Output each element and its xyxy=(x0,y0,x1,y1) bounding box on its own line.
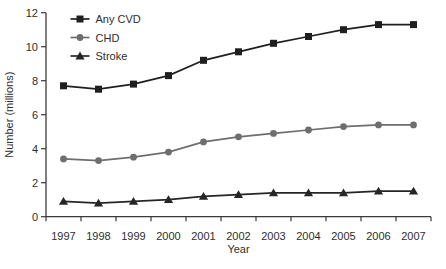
data-point-chd xyxy=(235,133,242,140)
data-point-any-cvd xyxy=(305,33,312,40)
data-point-any-cvd xyxy=(375,21,382,28)
y-tick-label: 0 xyxy=(32,211,38,223)
x-tick-label: 2004 xyxy=(296,230,320,242)
x-tick-label: 2000 xyxy=(156,230,180,242)
x-axis-title: Year xyxy=(227,243,250,255)
legend-square-icon xyxy=(77,16,84,23)
legend-circle-icon xyxy=(77,34,84,41)
series-line-chd xyxy=(64,125,414,161)
data-point-any-cvd xyxy=(235,48,242,55)
y-tick-label: 12 xyxy=(26,7,38,19)
x-tick-label: 2003 xyxy=(261,230,285,242)
x-tick-label: 2002 xyxy=(226,230,250,242)
y-tick-label: 4 xyxy=(32,143,38,155)
data-point-any-cvd xyxy=(410,21,417,28)
x-tick-label: 2006 xyxy=(366,230,390,242)
data-point-any-cvd xyxy=(270,40,277,47)
data-point-any-cvd xyxy=(95,86,102,93)
y-tick-label: 2 xyxy=(32,177,38,189)
data-point-chd xyxy=(375,122,382,129)
data-point-chd xyxy=(410,122,417,129)
x-tick-label: 2007 xyxy=(401,230,425,242)
y-tick-label: 8 xyxy=(32,75,38,87)
legend-label: Stroke xyxy=(96,50,128,62)
chart-canvas: 0246810121997199819992000200120022003200… xyxy=(0,0,446,269)
y-tick-label: 6 xyxy=(32,109,38,121)
data-point-chd xyxy=(340,123,347,130)
x-tick-label: 1999 xyxy=(121,230,145,242)
y-tick-label: 10 xyxy=(26,41,38,53)
data-point-any-cvd xyxy=(130,81,137,88)
data-point-any-cvd xyxy=(200,57,207,64)
data-point-any-cvd xyxy=(165,72,172,79)
x-tick-label: 2005 xyxy=(331,230,355,242)
data-point-any-cvd xyxy=(60,82,67,89)
y-axis-title: Number (millions) xyxy=(3,72,15,158)
data-point-chd xyxy=(95,157,102,164)
x-tick-label: 2001 xyxy=(191,230,215,242)
data-point-chd xyxy=(130,154,137,161)
data-point-any-cvd xyxy=(340,26,347,33)
data-point-chd xyxy=(165,149,172,156)
cvd-trend-line-chart: 0246810121997199819992000200120022003200… xyxy=(0,0,446,269)
legend-label: Any CVD xyxy=(96,13,141,25)
x-tick-label: 1997 xyxy=(51,230,75,242)
legend-label: CHD xyxy=(96,32,120,44)
data-point-chd xyxy=(270,130,277,137)
data-point-chd xyxy=(60,156,67,163)
data-point-chd xyxy=(305,127,312,134)
plot-area: 0246810121997199819992000200120022003200… xyxy=(26,7,431,242)
data-point-chd xyxy=(200,139,207,146)
x-tick-label: 1998 xyxy=(86,230,110,242)
